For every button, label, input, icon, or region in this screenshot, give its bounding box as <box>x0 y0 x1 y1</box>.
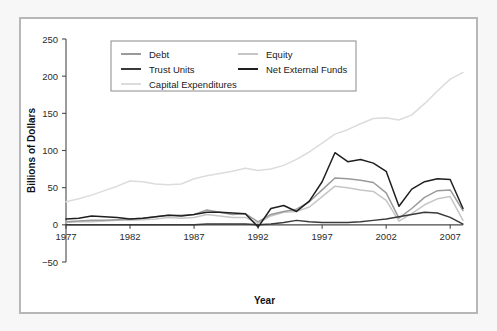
series-line-capital-expenditures <box>66 72 463 201</box>
y-tick-label: 100 <box>42 145 58 156</box>
y-tick-label: 0 <box>53 219 58 230</box>
y-tick-label: 250 <box>42 34 58 45</box>
x-tick-label: 1977 <box>55 231 76 242</box>
legend-label-net-external-funds: Net External Funds <box>266 64 348 75</box>
figure-container: −500501001502002501977198219871992199720… <box>0 0 497 331</box>
chart-frame: −500501001502002501977198219871992199720… <box>19 17 478 314</box>
y-tick-label: 50 <box>47 182 58 193</box>
line-chart: −500501001502002501977198219871992199720… <box>21 19 476 312</box>
x-axis-title: Year <box>254 295 275 306</box>
legend-label-equity: Equity <box>266 49 293 60</box>
x-tick-label: 1997 <box>312 231 333 242</box>
x-tick-label: 1982 <box>119 231 140 242</box>
x-tick-label: 1987 <box>183 231 204 242</box>
x-tick-label: 2002 <box>376 231 397 242</box>
legend-label-trust-units: Trust Units <box>149 64 195 75</box>
y-tick-label: 200 <box>42 71 58 82</box>
y-tick-label: 150 <box>42 108 58 119</box>
x-tick-label: 1992 <box>248 231 269 242</box>
legend-label-capital-expenditures: Capital Expenditures <box>149 79 237 90</box>
y-axis-title: Billions of Dollars <box>26 108 37 193</box>
x-tick-label: 2007 <box>440 231 461 242</box>
y-tick-label: −50 <box>42 257 58 268</box>
legend-label-debt: Debt <box>149 49 169 60</box>
